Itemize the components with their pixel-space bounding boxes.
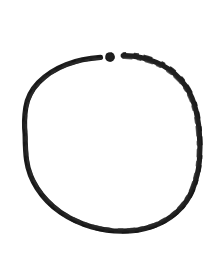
open-ring-figure: [0, 0, 213, 255]
canvas-background: [0, 0, 213, 255]
drawing-canvas: Hand-drawn open ring with a separate dot…: [0, 0, 213, 255]
